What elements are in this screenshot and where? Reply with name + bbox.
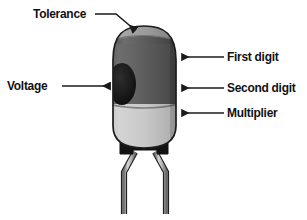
label-second-digit: Second digit: [227, 81, 295, 95]
capacitor-body: [104, 26, 186, 156]
label-tolerance: Tolerance: [33, 7, 86, 21]
body-shade-right: [170, 26, 186, 156]
capacitor-color-code-diagram: Tolerance Voltage First digit Second dig…: [0, 0, 307, 220]
label-voltage: Voltage: [7, 79, 47, 93]
label-first-digit: First digit: [227, 50, 278, 64]
label-multiplier: Multiplier: [227, 106, 277, 120]
body-shade-left: [104, 26, 112, 156]
capacitor-leads: [124, 152, 166, 214]
